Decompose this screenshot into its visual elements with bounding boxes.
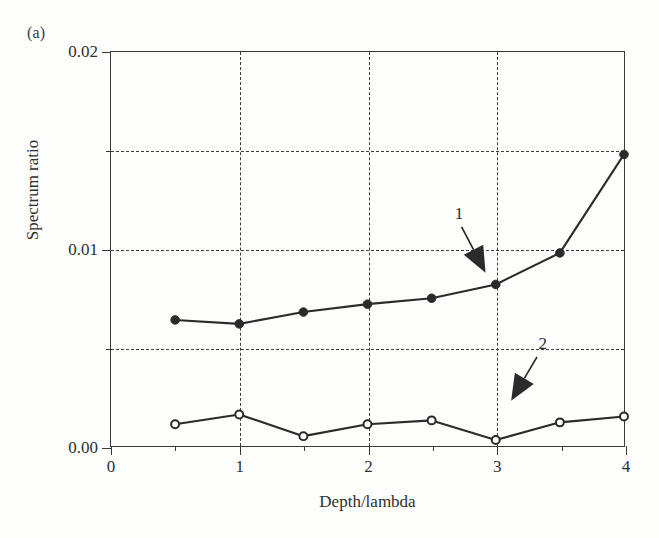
- y-tick-label: 0.02: [68, 42, 98, 62]
- data-point-1: [556, 249, 565, 258]
- data-point-1: [299, 308, 308, 317]
- annotation-1-arrow-tail: [462, 227, 474, 250]
- annotation-label-2: 2: [538, 334, 547, 354]
- x-axis-title: Depth/lambda: [110, 492, 625, 512]
- annotation-2-arrow-head: [511, 373, 534, 401]
- y-tick-label: 0.01: [68, 240, 98, 260]
- data-point-1: [427, 294, 436, 303]
- x-tick-label: 4: [622, 457, 631, 477]
- data-point-2: [235, 411, 243, 419]
- x-tick-label: 3: [493, 457, 502, 477]
- x-tick-label: 0: [107, 457, 116, 477]
- data-point-1: [620, 150, 629, 159]
- data-point-1: [363, 300, 372, 309]
- x-tick-major: [111, 446, 112, 455]
- series-line-2: [175, 414, 624, 440]
- x-tick-major: [240, 446, 241, 455]
- x-tick-minor: [433, 446, 434, 451]
- x-tick-label: 2: [364, 457, 373, 477]
- series-line-1: [175, 154, 624, 323]
- x-tick-minor: [304, 446, 305, 451]
- data-point-2: [492, 436, 500, 444]
- data-point-1: [491, 280, 500, 289]
- x-tick-label: 1: [236, 457, 245, 477]
- figure-panel: (a) Spectrum ratio Depth/lambda 0.000.01…: [0, 0, 659, 538]
- data-point-1: [171, 316, 180, 325]
- annotation-label-1: 1: [455, 204, 464, 224]
- x-tick-minor: [562, 446, 563, 451]
- y-tick-major: [102, 250, 111, 251]
- panel-label: (a): [27, 24, 45, 42]
- data-point-1: [235, 320, 244, 329]
- data-point-2: [299, 432, 307, 440]
- y-tick-major: [102, 448, 111, 449]
- data-point-2: [620, 412, 628, 420]
- y-axis-title: Spectrum ratio: [23, 90, 43, 290]
- annotation-1-arrow-head: [464, 245, 486, 273]
- data-point-2: [364, 420, 372, 428]
- annotation-2-arrow-tail: [524, 357, 537, 379]
- x-tick-major: [626, 446, 627, 455]
- data-point-2: [556, 418, 564, 426]
- x-tick-major: [369, 446, 370, 455]
- plot-area: 0.000.010.0201234 12: [110, 51, 625, 447]
- x-tick-major: [497, 446, 498, 455]
- x-tick-minor: [175, 446, 176, 451]
- data-point-2: [428, 416, 436, 424]
- y-tick-major: [102, 52, 111, 53]
- data-series-layer: [111, 52, 624, 446]
- y-tick-label: 0.00: [68, 438, 98, 458]
- data-point-2: [171, 420, 179, 428]
